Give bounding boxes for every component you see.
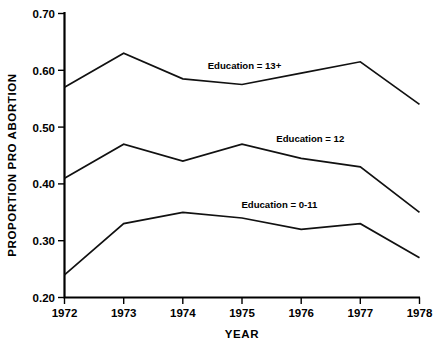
x-tick-label: 1973 — [111, 307, 137, 319]
y-tick-label: 0.60 — [33, 65, 55, 77]
y-tick-label: 0.50 — [33, 122, 55, 134]
line-chart-svg: PROPORTION PRO ABORTION 0.70 0.60 0.50 0… — [0, 0, 441, 349]
x-tick-label: 1974 — [170, 307, 196, 319]
x-tick-label: 1976 — [288, 307, 314, 319]
series-annotation-education-0-11: Education = 0-11 — [241, 199, 318, 210]
y-tick-label: 0.40 — [33, 178, 55, 190]
x-tick-label: 1977 — [348, 307, 374, 319]
x-tick-label: 1978 — [407, 307, 433, 319]
x-axis-title: YEAR — [225, 328, 259, 340]
y-tick-label: 0.70 — [33, 8, 55, 20]
series-annotation-education-13plus: Education = 13+ — [208, 60, 282, 71]
y-tick-label: 0.20 — [33, 292, 55, 304]
y-tick-label: 0.30 — [33, 235, 55, 247]
x-tick-label: 1972 — [52, 307, 78, 319]
series-annotation-education-12: Education = 12 — [276, 133, 344, 144]
chart-figure: PROPORTION PRO ABORTION 0.70 0.60 0.50 0… — [0, 0, 441, 349]
x-tick-label: 1975 — [229, 307, 255, 319]
y-axis-title: PROPORTION PRO ABORTION — [6, 73, 18, 256]
